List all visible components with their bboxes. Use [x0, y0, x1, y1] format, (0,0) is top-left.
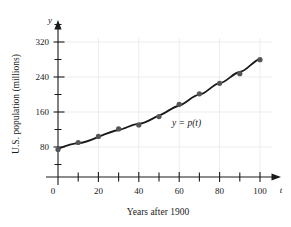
data-point — [96, 134, 101, 139]
data-point — [217, 81, 222, 86]
data-point — [76, 140, 81, 145]
data-point — [136, 122, 141, 127]
x-axis-symbol: t — [280, 185, 283, 195]
y-tick-label: 80 — [40, 142, 50, 152]
data-point — [156, 114, 161, 119]
x-tick-label: 0 — [51, 186, 56, 196]
data-point — [257, 57, 262, 62]
data-points — [55, 57, 262, 152]
data-point — [177, 102, 182, 107]
data-point — [197, 91, 202, 96]
x-tick-label: 60 — [175, 186, 185, 196]
x-axis — [46, 173, 281, 180]
x-tick-label: 40 — [134, 186, 144, 196]
curve-equation-label: y = p(t) — [171, 118, 201, 129]
population-chart-figure: 320 240 160 80 0 20 40 60 80 100 y t — [0, 0, 291, 227]
x-axis-title: Years after 1900 — [127, 207, 190, 217]
y-tick-label: 240 — [36, 72, 50, 82]
chart-canvas: 320 240 160 80 0 20 40 60 80 100 y t — [0, 0, 291, 227]
data-point — [116, 126, 121, 131]
y-axis-title: U.S. population (millions) — [11, 54, 22, 154]
x-tick-label: 20 — [94, 186, 104, 196]
x-axis-arrowhead — [272, 173, 282, 180]
data-point — [237, 71, 242, 76]
data-point — [55, 147, 60, 152]
population-model-curve — [58, 59, 260, 149]
x-tick-label: 100 — [253, 186, 267, 196]
y-tick-label: 160 — [36, 107, 50, 117]
y-axis-symbol: y — [47, 15, 52, 25]
y-axis — [54, 20, 61, 185]
x-tick-label: 80 — [215, 186, 225, 196]
y-tick-label: 320 — [36, 37, 50, 47]
gridlines — [58, 38, 272, 177]
